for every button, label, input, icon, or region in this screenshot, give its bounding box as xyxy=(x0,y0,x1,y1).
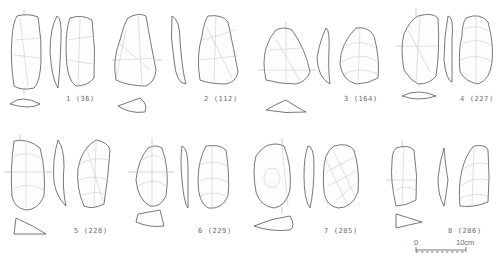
artifact-8-back xyxy=(459,146,489,207)
artifact-1-drawing xyxy=(10,10,95,107)
artifact-1-label: 1 (36) xyxy=(66,95,95,103)
scale-start-label: 0 xyxy=(414,238,418,247)
artifact-8-side xyxy=(438,148,448,206)
artifact-2-back xyxy=(198,16,238,84)
scale-end-label: 10cm xyxy=(456,238,474,247)
artifact-8-section xyxy=(396,214,422,228)
artifact-5-back xyxy=(78,140,110,208)
artifact-3-label: 3 (164) xyxy=(344,95,378,103)
artifact-7-side xyxy=(304,146,314,208)
artifact-5-drawing xyxy=(4,134,110,234)
artifact-2-label: 2 (112) xyxy=(204,95,238,103)
artifact-3-side xyxy=(317,28,330,84)
artifact-6-back xyxy=(198,146,229,209)
artifact-6-label: 6 (229) xyxy=(198,227,232,235)
artifact-4-label: 4 (227) xyxy=(460,95,494,103)
artifact-1-section xyxy=(10,99,40,107)
artifact-3-section xyxy=(266,100,306,113)
artifact-8-label: 8 (286) xyxy=(448,227,482,235)
artifact-5-label: 5 (228) xyxy=(74,227,108,235)
artifact-1-face xyxy=(11,15,41,89)
artifact-2-face xyxy=(115,14,156,86)
scale-bar xyxy=(416,247,466,252)
artifact-7-drawing xyxy=(254,138,359,231)
artifact-4-drawing xyxy=(396,8,493,99)
artifact-5-side xyxy=(54,140,67,206)
artifact-3-face xyxy=(264,28,310,84)
artifact-6-drawing xyxy=(128,138,229,227)
artifact-7-label: 7 (285) xyxy=(324,227,358,235)
artifact-plate xyxy=(0,0,500,262)
artifact-4-face xyxy=(402,14,439,84)
artifact-6-face xyxy=(136,146,167,206)
artifact-4-side xyxy=(444,16,453,82)
artifact-6-section xyxy=(136,210,164,227)
artifact-6-side xyxy=(181,146,188,208)
artifact-1-back xyxy=(66,16,95,86)
artifact-5-face xyxy=(11,140,44,210)
artifact-7-back xyxy=(323,145,358,208)
artifact-7-section xyxy=(254,216,293,231)
artifact-2-side xyxy=(171,16,186,84)
artifact-8-drawing xyxy=(386,140,489,228)
artifact-8-face xyxy=(392,146,417,206)
artifact-1-side xyxy=(50,16,61,88)
artifact-2-section xyxy=(118,98,146,112)
artifact-4-section xyxy=(402,92,436,99)
artifact-5-section xyxy=(14,218,46,234)
